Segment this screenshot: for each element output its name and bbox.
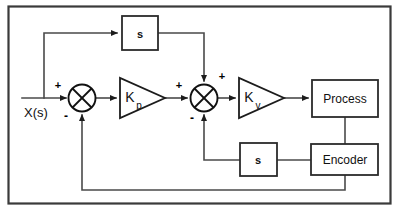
gain-block-kp[interactable]: K p — [120, 78, 165, 118]
block-encoder[interactable]: Encoder — [311, 144, 378, 175]
summing-junction-2[interactable] — [191, 85, 218, 112]
sum1-sign-minus: - — [64, 109, 68, 123]
block-diagram-svg: s + - K p + + - K v — [0, 0, 399, 212]
summing-junction-1[interactable] — [69, 85, 96, 112]
gain-kp-subscript: p — [136, 100, 142, 111]
sum2-sign-plus-top: + — [219, 70, 225, 82]
sum2-sign-minus: - — [190, 111, 194, 125]
gain-kp-label: K — [125, 89, 135, 105]
gain-kv-subscript: v — [256, 100, 261, 111]
gain-kv-label: K — [244, 89, 254, 105]
block-diagram-canvas: s + - K p + + - K v — [0, 0, 399, 212]
block-s-bottom-label: s — [255, 154, 261, 166]
block-s-top-label: s — [137, 28, 143, 40]
wire-s-top-to-sum2 — [158, 33, 204, 81]
signal-wires — [22, 33, 345, 190]
sum1-sign-plus: + — [55, 79, 61, 91]
block-s-top[interactable]: s — [122, 16, 158, 50]
block-process[interactable]: Process — [312, 80, 378, 117]
input-signal-label: X(s) — [24, 105, 48, 120]
block-process-label: Process — [323, 92, 366, 106]
block-encoder-label: Encoder — [323, 153, 368, 167]
wire-encoder-to-sum1 — [82, 115, 345, 190]
block-s-bottom[interactable]: s — [240, 143, 277, 176]
sum2-sign-plus-left: + — [176, 79, 182, 91]
wire-s-bottom-to-sum2 — [204, 115, 240, 160]
gain-block-kv[interactable]: K v — [239, 78, 284, 118]
